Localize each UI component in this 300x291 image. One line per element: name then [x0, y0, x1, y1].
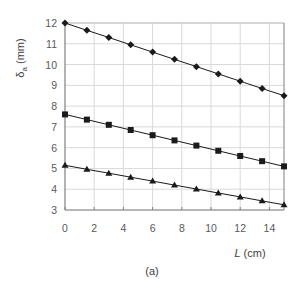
diamond-marker	[281, 92, 288, 99]
square-marker	[237, 153, 243, 159]
square-marker	[172, 137, 178, 143]
y-tick-label: 6	[51, 142, 57, 154]
square-marker	[62, 111, 68, 117]
y-axis-title: δa (mm)	[14, 38, 29, 77]
diamond-marker	[105, 34, 112, 41]
y-tick-label: 11	[46, 38, 57, 50]
figure-caption: (a)	[145, 265, 158, 277]
y-tick-label: 12	[45, 17, 57, 29]
square-marker	[150, 132, 156, 138]
series-square	[62, 111, 287, 169]
y-tick-label: 5	[51, 162, 57, 174]
data-series	[62, 20, 288, 208]
x-tick-label: 0	[62, 222, 68, 234]
x-tick-label: 14	[264, 222, 276, 234]
x-tick-labels: 02468101214	[62, 222, 275, 234]
y-tick-label: 8	[51, 100, 57, 112]
y-tick-label: 4	[51, 183, 57, 195]
x-tick-label: 12	[234, 222, 246, 234]
diamond-marker	[83, 27, 90, 34]
diamond-marker	[215, 70, 222, 77]
square-marker	[281, 163, 287, 169]
x-tick-label: 6	[150, 222, 156, 234]
square-marker	[128, 127, 134, 133]
triangle-marker	[62, 162, 69, 168]
square-marker	[84, 117, 90, 123]
chart: 3456789101112 02468101214 δa (mm) L (cm)…	[0, 0, 300, 291]
square-marker	[106, 122, 112, 128]
y-tick-label: 7	[51, 121, 57, 133]
y-tick-labels: 3456789101112	[45, 17, 57, 216]
square-marker	[193, 143, 199, 149]
diamond-marker	[62, 20, 69, 27]
x-tick-label: 2	[91, 222, 97, 234]
diamond-marker	[149, 49, 156, 56]
y-tick-label: 9	[51, 79, 57, 91]
y-tick-label: 3	[51, 204, 57, 216]
diamond-marker	[171, 56, 178, 63]
square-marker	[259, 158, 265, 164]
diamond-marker	[127, 41, 134, 48]
x-axis-title: L (cm)	[234, 247, 265, 259]
x-tick-label: 4	[120, 222, 126, 234]
diamond-marker	[259, 85, 266, 92]
series-diamond	[62, 20, 288, 100]
diamond-marker	[237, 78, 244, 85]
y-tick-label: 10	[45, 59, 57, 71]
x-tick-label: 8	[179, 222, 185, 234]
square-marker	[215, 148, 221, 154]
x-tick-label: 10	[205, 222, 217, 234]
